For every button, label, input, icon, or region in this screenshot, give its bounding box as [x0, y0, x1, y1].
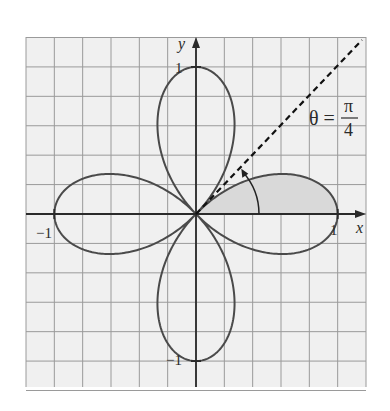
y-tick-label-neg1: −1 [166, 352, 182, 368]
x-axis-label: x [355, 219, 363, 236]
theta-equals-label: θ = [309, 107, 335, 129]
pi-numerator: π [344, 96, 353, 116]
polar-rose-figure: x y 1 −1 1 −1 θ = π 4 [0, 0, 390, 411]
x-tick-label-neg1: −1 [36, 225, 52, 241]
y-axis-label: y [176, 35, 186, 53]
y-tick-label-1: 1 [175, 60, 183, 76]
four-denominator: 4 [344, 120, 353, 140]
x-tick-label-1: 1 [330, 222, 338, 238]
plot-area: x y 1 −1 1 −1 θ = π 4 [0, 0, 390, 411]
